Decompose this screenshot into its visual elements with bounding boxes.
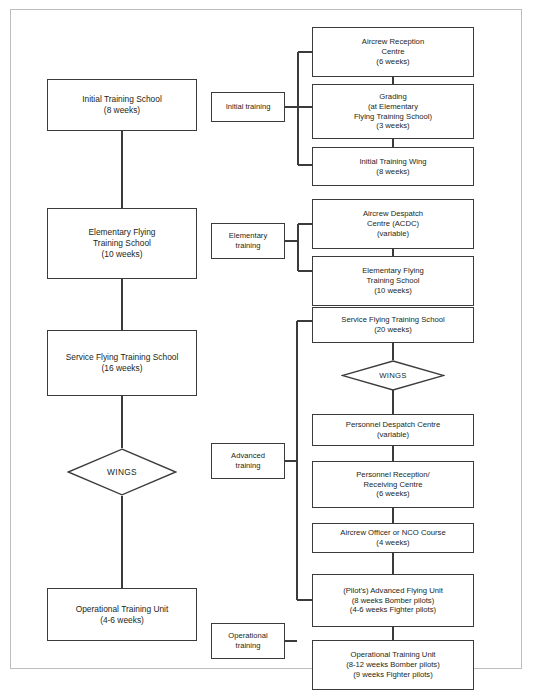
node-line: (4-6 weeks)	[51, 615, 193, 626]
node-line: Flying Training School)	[316, 112, 470, 122]
node-line: Centre (ACDC)	[316, 219, 470, 229]
node-wings-left: WINGS	[67, 448, 177, 496]
node-elementary-flying-training-school-right: Elementary Flying Training School (10 we…	[312, 256, 474, 306]
stage-label-line: Elementary	[215, 231, 281, 241]
node-aircrew-officer-or-nco-course: Aircrew Officer or NCO Course (4 weeks)	[312, 523, 474, 553]
node-line: Service Flying Training School	[51, 352, 193, 363]
node-line: Training School	[51, 238, 193, 249]
node-line: Grading	[316, 92, 470, 102]
node-personnel-reception-receiving-centre: Personnel Reception/ Receiving Centre (6…	[312, 461, 474, 508]
node-line: WINGS	[107, 467, 137, 477]
stage-label-line: training	[215, 461, 281, 471]
node-line: Centre	[316, 47, 470, 57]
stage-label-line: Initial training	[215, 102, 281, 112]
node-line: Personnel Despatch Centre	[316, 420, 470, 430]
node-line: (6 weeks)	[316, 489, 470, 499]
node-line: Aircrew Reception	[316, 37, 470, 47]
node-line: Operational Training Unit	[51, 604, 193, 615]
stage-label-operational-training: Operational training	[211, 623, 285, 659]
node-line: Aircrew Officer or NCO Course	[316, 528, 470, 538]
node-line: (4-6 weeks Fighter pilots)	[316, 605, 470, 615]
node-aircrew-reception-centre: Aircrew Reception Centre (6 weeks)	[312, 27, 474, 77]
node-line: (4 weeks)	[316, 538, 470, 548]
node-line: Initial Training School	[51, 94, 193, 105]
node-operational-training-unit: Operational Training Unit (4-6 weeks)	[47, 588, 197, 641]
node-personnel-despatch-centre: Personnel Despatch Centre (variable)	[312, 414, 474, 446]
node-service-flying-training-school-right: Service Flying Training School (20 weeks…	[312, 307, 474, 343]
stage-label-initial-training: Initial training	[211, 92, 285, 122]
node-line: (8-12 weeks Bomber pilots)	[316, 660, 470, 670]
node-line: (16 weeks)	[51, 363, 193, 374]
node-line: WINGS	[379, 371, 407, 380]
node-pilots-advanced-flying-unit: (Pilot's) Advanced Flying Unit (8 weeks …	[312, 574, 474, 627]
node-line: Receiving Centre	[316, 480, 470, 490]
node-wings-right: WINGS	[341, 360, 445, 391]
diagram-page: Initial Training School (8 weeks) Elemen…	[0, 0, 534, 693]
node-line: Elementary Flying	[51, 227, 193, 238]
node-operational-training-unit-right: Operational Training Unit (8-12 weeks Bo…	[312, 640, 474, 690]
stage-label-line: training	[215, 241, 281, 251]
stage-label-advanced-training: Advanced training	[211, 443, 285, 479]
node-grading: Grading (at Elementary Flying Training S…	[312, 84, 474, 139]
stage-label-elementary-training: Elementary training	[211, 223, 285, 259]
node-line: Service Flying Training School	[316, 315, 470, 325]
node-line: (at Elementary	[316, 102, 470, 112]
stage-label-line: training	[215, 641, 281, 651]
node-service-flying-training-school: Service Flying Training School (16 weeks…	[47, 330, 197, 396]
node-line: (9 weeks Fighter pilots)	[316, 670, 470, 680]
node-line: Training School	[316, 276, 470, 286]
node-line: Aircrew Despatch	[316, 209, 470, 219]
node-initial-training-school: Initial Training School (8 weeks)	[47, 79, 197, 131]
node-line: (3 weeks)	[316, 121, 470, 131]
node-line: (6 weeks)	[316, 57, 470, 67]
node-line: (8 weeks Bomber pilots)	[316, 596, 470, 606]
node-line: Operational Training Unit	[316, 650, 470, 660]
stage-label-line: Operational	[215, 631, 281, 641]
node-line: (10 weeks)	[51, 249, 193, 260]
stage-label-line: Advanced	[215, 451, 281, 461]
node-line: Personnel Reception/	[316, 470, 470, 480]
node-aircrew-despatch-centre: Aircrew Despatch Centre (ACDC) (variable…	[312, 199, 474, 249]
node-line: Initial Training Wing	[316, 157, 470, 167]
node-elementary-flying-training-school: Elementary Flying Training School (10 we…	[47, 208, 197, 279]
node-line: (8 weeks)	[316, 167, 470, 177]
node-line: (10 weeks)	[316, 286, 470, 296]
node-line: (8 weeks)	[51, 105, 193, 116]
node-initial-training-wing: Initial Training Wing (8 weeks)	[312, 147, 474, 186]
node-line: Elementary Flying	[316, 266, 470, 276]
node-line: (20 weeks)	[316, 325, 470, 335]
node-line: (Pilot's) Advanced Flying Unit	[316, 586, 470, 596]
node-line: (variable)	[316, 229, 470, 239]
node-line: (variable)	[316, 430, 470, 440]
